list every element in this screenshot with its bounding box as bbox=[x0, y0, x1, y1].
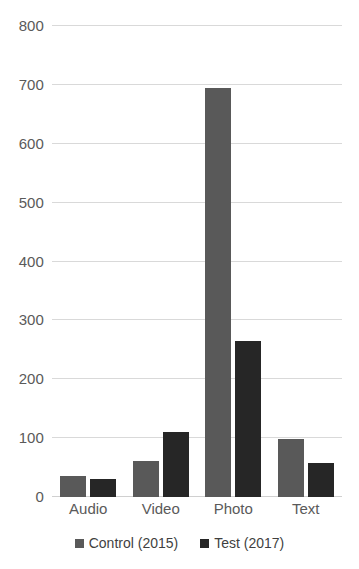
bar-text-test[interactable] bbox=[308, 463, 334, 497]
y-tick-label-500: 500 bbox=[19, 193, 44, 210]
bar-chart: 0100200300400500600700800 AudioVideoPhot… bbox=[0, 0, 359, 569]
legend-item-test[interactable]: Test (2017) bbox=[200, 535, 284, 551]
legend-swatch-icon-test bbox=[200, 539, 209, 548]
x-tick-label-photo: Photo bbox=[197, 500, 270, 517]
plot-area: 0100200300400500600700800 bbox=[52, 26, 342, 497]
bar-text-control[interactable] bbox=[278, 439, 304, 497]
x-tick-label-video: Video bbox=[125, 500, 198, 517]
y-tick-label-300: 300 bbox=[19, 311, 44, 328]
bar-photo-control[interactable] bbox=[205, 88, 231, 497]
y-tick-label-100: 100 bbox=[19, 429, 44, 446]
x-axis-labels: AudioVideoPhotoText bbox=[52, 500, 342, 517]
legend-label-test: Test (2017) bbox=[214, 535, 284, 551]
y-tick-label-700: 700 bbox=[19, 75, 44, 92]
bar-group-video bbox=[125, 26, 198, 497]
chart-legend: Control (2015)Test (2017) bbox=[0, 535, 359, 551]
y-tick-label-600: 600 bbox=[19, 134, 44, 151]
bar-groups bbox=[52, 26, 342, 497]
y-tick-label-800: 800 bbox=[19, 17, 44, 34]
bar-group-text bbox=[270, 26, 343, 497]
legend-swatch-icon-control bbox=[75, 539, 84, 548]
bar-audio-control[interactable] bbox=[60, 476, 86, 497]
y-tick-label-200: 200 bbox=[19, 370, 44, 387]
y-tick-label-0: 0 bbox=[36, 488, 44, 505]
x-tick-label-audio: Audio bbox=[52, 500, 125, 517]
bar-group-photo bbox=[197, 26, 270, 497]
bar-audio-test[interactable] bbox=[90, 479, 116, 497]
bar-group-audio bbox=[52, 26, 125, 497]
bar-video-test[interactable] bbox=[163, 432, 189, 497]
bar-photo-test[interactable] bbox=[235, 341, 261, 497]
legend-item-control[interactable]: Control (2015) bbox=[75, 535, 179, 551]
legend-label-control: Control (2015) bbox=[89, 535, 179, 551]
y-tick-label-400: 400 bbox=[19, 252, 44, 269]
bar-video-control[interactable] bbox=[133, 461, 159, 498]
x-tick-label-text: Text bbox=[270, 500, 343, 517]
